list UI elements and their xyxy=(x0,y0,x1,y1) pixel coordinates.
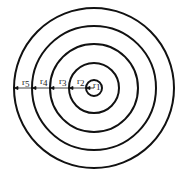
concentric-circles-diagram: r5 r4 r3 r2 r1 xyxy=(0,0,184,176)
label-r2: r2 xyxy=(77,76,85,88)
label-r5: r5 xyxy=(22,77,30,89)
radius-labels: r5 r4 r3 r2 r1 xyxy=(22,76,101,92)
label-r1: r1 xyxy=(93,80,101,92)
label-r3: r3 xyxy=(59,76,67,88)
label-r4: r4 xyxy=(40,76,48,88)
